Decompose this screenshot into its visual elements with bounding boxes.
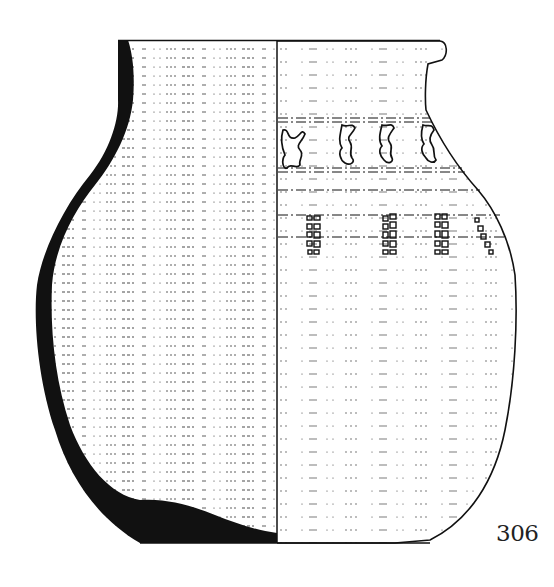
catalog-number: 306 <box>496 520 538 546</box>
pottery-drawing <box>0 0 554 587</box>
